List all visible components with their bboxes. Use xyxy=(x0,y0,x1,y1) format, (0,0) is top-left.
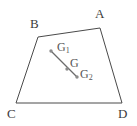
vertex-label-b: B xyxy=(30,17,39,30)
point-label-g1: G1 xyxy=(57,41,70,53)
point-label-g1-subscript: 1 xyxy=(66,46,70,55)
point-label-g-main: G xyxy=(70,56,79,70)
figure-canvas xyxy=(0,0,137,126)
point-g-dot xyxy=(65,67,68,70)
geometry-figure: A B C D G1 G G2 xyxy=(0,0,137,126)
point-label-g: G xyxy=(70,57,79,69)
point-label-g2-subscript: 2 xyxy=(89,73,93,82)
vertex-label-a: A xyxy=(95,7,104,20)
point-label-g2-main: G xyxy=(80,67,89,81)
point-label-g2: G2 xyxy=(80,68,93,80)
point-g2-dot xyxy=(75,75,78,78)
point-g1-dot xyxy=(49,49,52,52)
quadrilateral-abcd xyxy=(16,28,122,103)
point-label-g1-main: G xyxy=(57,40,66,54)
vertex-label-d: D xyxy=(118,107,127,120)
vertex-label-c: C xyxy=(7,107,16,120)
